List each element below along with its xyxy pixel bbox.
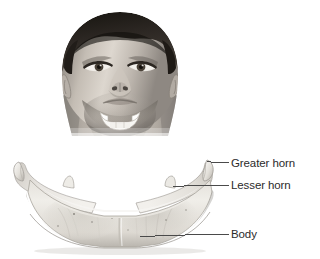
label-body: Body xyxy=(231,228,257,240)
hyoid-bone-figure xyxy=(0,0,320,259)
label-lesser-horn: Lesser horn xyxy=(231,179,291,191)
figure-canvas: Greater horn Lesser horn Body xyxy=(0,0,320,259)
head-tilted-back-inset xyxy=(61,12,180,142)
label-greater-horn: Greater horn xyxy=(231,157,295,169)
